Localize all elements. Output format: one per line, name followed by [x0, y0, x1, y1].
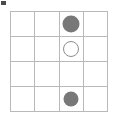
grid-cell-r4c4[interactable] — [84, 87, 108, 112]
grid-cell-r1c2[interactable] — [35, 12, 59, 37]
grid-cell-r3c1[interactable] — [11, 62, 35, 87]
grid-cell-r3c4[interactable] — [84, 62, 108, 87]
grid-cell-r4c2[interactable] — [35, 87, 59, 112]
grid-cell-r2c3[interactable] — [60, 37, 84, 62]
marker-grid — [10, 11, 108, 112]
diagram-canvas — [0, 0, 116, 119]
grid-cell-r4c3[interactable] — [60, 87, 84, 112]
grid-cell-r3c2[interactable] — [35, 62, 59, 87]
grid-cell-r2c4[interactable] — [84, 37, 108, 62]
grid-cell-r2c1[interactable] — [11, 37, 35, 62]
grid-cell-r4c1[interactable] — [11, 87, 35, 112]
marker-filled-r4c3 — [64, 92, 79, 107]
grid-cell-r1c3[interactable] — [60, 12, 84, 37]
grid-cell-r2c2[interactable] — [35, 37, 59, 62]
marker-hollow-r2c3 — [63, 41, 79, 57]
marker-filled-r1c3 — [63, 16, 80, 33]
grid-cell-r1c4[interactable] — [84, 12, 108, 37]
corner-speck-icon — [1, 1, 6, 5]
grid-cell-r3c3[interactable] — [60, 62, 84, 87]
grid-cell-r1c1[interactable] — [11, 12, 35, 37]
